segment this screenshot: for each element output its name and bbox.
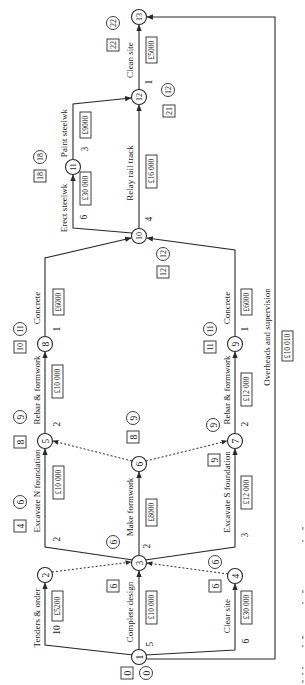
early-time-node-7: 9 — [208, 454, 220, 466]
svg-text:£8000: £8000 — [147, 502, 156, 521]
late-time-node-9: 11 — [204, 323, 217, 336]
activity-cost-concrete-s: £6000 — [241, 289, 252, 315]
svg-text:£9000: £9000 — [81, 115, 90, 134]
node-7: 7 — [228, 434, 243, 449]
early-time-node-3: 6 — [107, 580, 119, 592]
late-time-node-12: 12 — [162, 84, 175, 97]
early-time-node-11: 18 — [34, 170, 46, 182]
activity-cost-rebar-s: £12 000 — [241, 373, 252, 406]
activity-duration-rebar-n: 2 — [52, 421, 62, 426]
early-time-node-5: 8 — [14, 436, 26, 448]
faint-caption — [302, 527, 304, 683]
node-10: 10 — [132, 229, 147, 244]
activity-cost-make-formwork: £8000 — [146, 499, 157, 526]
late-time-node-11: 18 — [34, 151, 47, 164]
late-time-node-10: 12 — [157, 248, 170, 261]
svg-text:£12 000: £12 000 — [242, 480, 251, 505]
svg-text:£12 000: £12 000 — [242, 377, 251, 402]
activity-name-paint-steelwk: Paint steelwk — [59, 108, 69, 157]
activity-name-erect-steelwk: Erect steelwk — [59, 183, 69, 232]
late-time-node-6: 9 — [127, 412, 140, 425]
activity-cost-complete-design: £10 000 — [146, 591, 157, 624]
late-time-node-4: 6 — [209, 556, 222, 569]
svg-text:11: 11 — [206, 343, 215, 351]
activity-duration-excavate-n: 2 — [52, 536, 62, 541]
early-time-node-2: 4 — [14, 520, 26, 532]
early-time-node-9: 11 — [204, 341, 216, 353]
activity-name-make-formwork: Make formwork — [125, 477, 135, 536]
activity-duration-concrete-n: 1 — [52, 326, 62, 331]
activity-duration-clear-site: 6 — [241, 638, 251, 643]
activity-duration-concrete-s: 1 — [240, 326, 250, 331]
early-time-node-13: 22 — [107, 39, 119, 51]
svg-text:9: 9 — [16, 414, 26, 419]
activity-duration-erect-steelwk: 6 — [79, 214, 89, 219]
early-time-node-12: 21 — [163, 105, 175, 117]
node-6: 6 — [132, 457, 147, 472]
svg-text:12: 12 — [164, 86, 173, 94]
activity-name-excavate-n: Excavate N foundation — [32, 449, 42, 532]
svg-text:12: 12 — [159, 268, 168, 276]
activity-duration-rebar-s: 2 — [240, 421, 250, 426]
activity-name-clear-site: Clear site — [222, 599, 232, 633]
svg-text:£10 000: £10 000 — [53, 369, 62, 394]
activity-cost-rebar-n: £10 000 — [52, 365, 63, 398]
svg-text:2: 2 — [41, 572, 51, 577]
svg-text:11: 11 — [16, 325, 25, 333]
activity-name-complete-design: Complete design — [125, 581, 135, 642]
activity-name-relay-rail: Relay rail track — [125, 145, 135, 201]
late-time-node-13: 22 — [107, 17, 120, 30]
svg-text:10: 10 — [135, 232, 144, 240]
activity-name-overheads: Overheads and supervision — [262, 288, 272, 386]
svg-text:9: 9 — [209, 422, 219, 427]
svg-text:12: 12 — [159, 250, 168, 258]
activity-name-rebar-n: Rebar & formwork — [32, 355, 42, 424]
early-time-node-6: 8 — [127, 431, 139, 443]
activity-duration-make-formwork: 2 — [142, 543, 152, 548]
late-time-node-3: 6 — [107, 536, 120, 549]
late-time-node-8: 11 — [14, 323, 27, 336]
svg-text:5: 5 — [41, 438, 51, 443]
svg-text:6: 6 — [135, 461, 145, 466]
activity-cost-clean-site: £5000 — [146, 37, 157, 63]
activity-duration-relay-rail: 4 — [144, 216, 154, 221]
node-1: 1 — [132, 650, 147, 665]
activity-duration-paint-steelwk: 3 — [80, 146, 90, 151]
node-5: 5 — [38, 434, 53, 449]
svg-text:18: 18 — [36, 153, 45, 161]
svg-text:9: 9 — [129, 415, 139, 420]
svg-text:£10 000: £10 000 — [54, 470, 63, 495]
svg-text:8: 8 — [129, 434, 139, 439]
activity-cost-paint-steelwk: £9000 — [80, 112, 91, 138]
svg-text:6: 6 — [211, 583, 221, 588]
node-8: 8 — [38, 337, 53, 352]
early-time-node-1: 0 — [121, 667, 133, 679]
node-2: 2 — [38, 568, 53, 583]
activity-name-tenders: Tenders & order — [32, 589, 42, 648]
activity-name-concrete-n: Concrete — [32, 292, 42, 324]
node-12: 12 — [132, 90, 147, 105]
svg-text:£6000: £6000 — [242, 292, 251, 311]
svg-text:£10 010: £10 010 — [283, 334, 292, 359]
svg-text:6: 6 — [211, 559, 221, 564]
svg-text:£5000: £5000 — [147, 40, 156, 59]
node-9: 9 — [228, 337, 243, 352]
svg-text:£16 000: £16 000 — [147, 159, 156, 184]
activity-name-rebar-s: Rebar & formwork — [222, 355, 232, 424]
late-time-node-5: 9 — [14, 411, 27, 424]
svg-text:0: 0 — [123, 670, 133, 675]
svg-text:1: 1 — [135, 654, 145, 659]
network-diagram: 1 2 3 4 5 6 7 8 9 10 11 12 13 0 0 4 6 6 … — [0, 0, 305, 685]
svg-text:0: 0 — [142, 670, 152, 675]
activity-duration-complete-design: 5 — [145, 641, 155, 646]
activity-cost-concrete-n: £6000 — [53, 289, 64, 315]
activity-name-clean-site: Clean site — [125, 42, 135, 78]
dummy-6-5 — [53, 441, 132, 461]
svg-text:6: 6 — [16, 499, 26, 504]
svg-text:4: 4 — [231, 573, 241, 578]
svg-text:22: 22 — [109, 41, 118, 49]
early-time-node-10: 12 — [157, 266, 169, 278]
arrow-8-10 — [45, 238, 131, 336]
svg-text:4: 4 — [16, 523, 26, 528]
svg-text:8: 8 — [41, 341, 51, 346]
